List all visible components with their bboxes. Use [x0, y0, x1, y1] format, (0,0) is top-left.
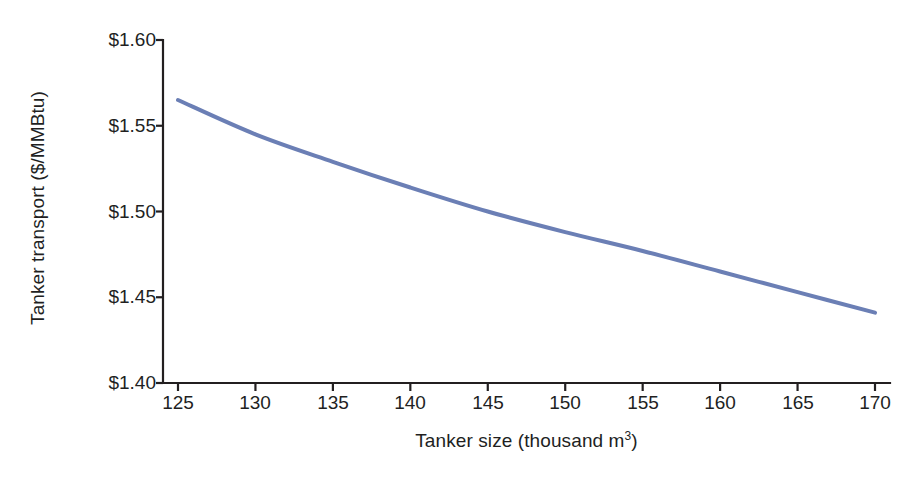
plot-area	[0, 0, 924, 483]
axis-spines	[163, 40, 890, 383]
chart-figure: Tanker transport ($/MMBtu) $1.40 $1.45 $…	[0, 0, 924, 483]
data-series-line	[178, 100, 875, 313]
x-axis-tick-marks	[178, 383, 875, 391]
